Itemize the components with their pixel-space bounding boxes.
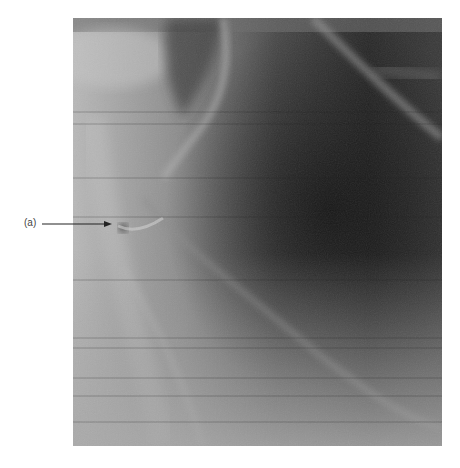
annotation-arrow-icon — [0, 0, 460, 468]
